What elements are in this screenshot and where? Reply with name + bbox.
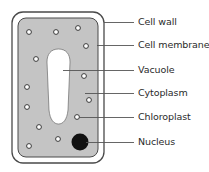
chloroplast (34, 57, 39, 62)
label-cytoplasm: Cytoplasm (138, 87, 188, 99)
label-chloroplast: Chloroplast (138, 111, 191, 123)
chloroplast (75, 115, 80, 120)
label-vacuole: Vacuole (138, 64, 174, 76)
nucleus (72, 134, 89, 151)
label-nucleus: Nucleus (138, 136, 175, 148)
chloroplast (54, 30, 59, 35)
chloroplast (84, 44, 89, 49)
chloroplast (27, 144, 32, 149)
vacuole (47, 49, 70, 124)
chloroplast (25, 105, 30, 110)
plant-cell-diagram (0, 0, 209, 172)
chloroplast (25, 85, 30, 90)
chloroplast (37, 125, 42, 130)
label-cell-wall: Cell wall (138, 16, 177, 28)
chloroplast (87, 98, 92, 103)
chloroplast (76, 26, 81, 31)
chloroplast (82, 74, 87, 79)
label-cell-membrane: Cell membrane (138, 39, 209, 51)
chloroplast (27, 30, 32, 35)
chloroplast (56, 137, 61, 142)
